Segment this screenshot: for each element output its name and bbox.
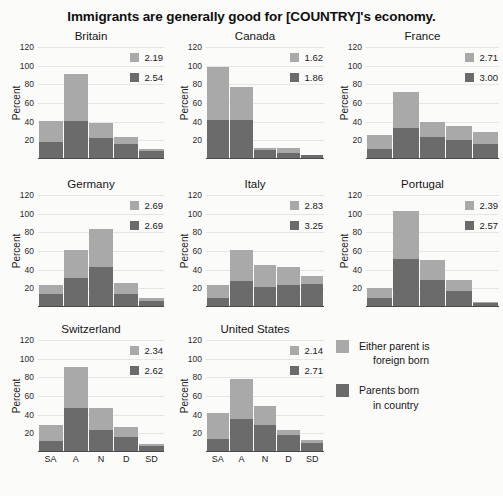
- legend-swatch-light-icon: [336, 340, 349, 353]
- bar-n[interactable]: [253, 47, 277, 158]
- bar-n[interactable]: [88, 47, 113, 158]
- y-tick-label: 120: [20, 335, 34, 345]
- y-tick-label: 40: [25, 117, 34, 127]
- y-tick-label: 60: [353, 98, 362, 108]
- y-tick-label: 60: [193, 98, 202, 108]
- bar-segment-foreign-born: [114, 427, 138, 437]
- bar-segment-foreign-born: [301, 276, 324, 283]
- bar-segment-born-in-country: [39, 294, 63, 306]
- x-tick-label: SD: [139, 454, 164, 464]
- bar-a[interactable]: [230, 47, 254, 158]
- legend-label-line2: in country: [359, 398, 419, 412]
- bar-a[interactable]: [63, 340, 88, 451]
- y-tick-label: 40: [353, 117, 362, 127]
- legend-item-born-in-country[interactable]: Parents bornin country: [336, 383, 496, 411]
- bar-n[interactable]: [419, 47, 446, 158]
- y-tick-label: 40: [25, 410, 34, 420]
- chart-page: Immigrants are generally good for [COUNT…: [0, 0, 503, 496]
- y-tick-label: 80: [25, 372, 34, 382]
- panel-germany: GermanyPercent204060801001202.692.69: [0, 178, 168, 323]
- panel-annotation-legend: 2.142.71: [290, 345, 324, 385]
- bar-segment-born-in-country: [114, 144, 138, 158]
- panel-annotation-value: 2.71: [305, 365, 324, 376]
- y-tick-label: 80: [25, 227, 34, 237]
- main-legend-cell: Either parent isforeign bornParents born…: [328, 323, 503, 483]
- bar-segment-foreign-born: [230, 87, 253, 120]
- bar-a[interactable]: [63, 195, 88, 306]
- panel-annotation-value: 2.19: [145, 52, 164, 63]
- bar-segment-foreign-born: [89, 229, 113, 266]
- legend-swatch-light-icon: [130, 201, 139, 210]
- bar-sa[interactable]: [366, 195, 393, 306]
- panel-annotation-value: 2.69: [145, 200, 164, 211]
- y-tick-label: 80: [353, 79, 362, 89]
- legend-swatch-light-icon: [130, 53, 139, 62]
- legend-swatch-dark-icon: [290, 73, 299, 82]
- bar-segment-foreign-born: [207, 285, 230, 297]
- panel-annotation-value: 1.86: [305, 72, 324, 83]
- bar-segment-born-in-country: [64, 408, 88, 451]
- bar-segment-born-in-country: [254, 287, 277, 306]
- legend-swatch-dark-icon: [290, 366, 299, 375]
- panel-title: United States: [168, 323, 328, 335]
- bar-sa[interactable]: [206, 195, 230, 306]
- bar-segment-born-in-country: [230, 120, 253, 158]
- bar-segment-foreign-born: [89, 408, 113, 429]
- legend-item-foreign-born[interactable]: Either parent isforeign born: [336, 339, 496, 367]
- bar-sa[interactable]: [206, 47, 230, 158]
- bar-a[interactable]: [230, 195, 254, 306]
- panel-title: Switzerland: [0, 323, 168, 335]
- y-tick-label: 120: [348, 190, 362, 200]
- panel-annotation-value: 3.25: [305, 220, 324, 231]
- y-tick-label: 40: [25, 265, 34, 275]
- bar-sa[interactable]: [38, 340, 63, 451]
- bar-segment-foreign-born: [114, 283, 138, 294]
- bar-a[interactable]: [63, 47, 88, 158]
- y-tick-label: 80: [193, 372, 202, 382]
- x-tick-label: N: [253, 454, 277, 464]
- bar-segment-born-in-country: [446, 291, 472, 306]
- bar-n[interactable]: [88, 195, 113, 306]
- bar-segment-born-in-country: [367, 149, 393, 158]
- bar-sa[interactable]: [206, 340, 230, 451]
- bar-segment-foreign-born: [39, 121, 63, 142]
- bar-n[interactable]: [253, 340, 277, 451]
- bar-segment-born-in-country: [89, 138, 113, 158]
- bar-segment-born-in-country: [230, 281, 253, 306]
- bar-segment-foreign-born: [393, 92, 419, 128]
- x-tick-label: SA: [38, 454, 63, 464]
- legend-swatch-light-icon: [130, 346, 139, 355]
- y-axis-ticks: 20406080100120: [181, 340, 204, 452]
- bar-sa[interactable]: [38, 195, 63, 306]
- bar-segment-born-in-country: [139, 151, 163, 158]
- panel-annotation-legend: 2.713.00: [465, 52, 499, 92]
- y-tick-label: 40: [193, 410, 202, 420]
- panel-annotation-row: 1.86: [290, 72, 324, 83]
- x-tick-label: SA: [206, 454, 230, 464]
- y-tick-label: 100: [188, 209, 202, 219]
- bar-segment-born-in-country: [367, 298, 393, 306]
- y-tick-label: 20: [25, 283, 34, 293]
- bar-segment-born-in-country: [254, 150, 277, 158]
- bar-a[interactable]: [393, 195, 420, 306]
- bar-sa[interactable]: [38, 47, 63, 158]
- bar-segment-foreign-born: [367, 288, 393, 297]
- bar-n[interactable]: [88, 340, 113, 451]
- bar-a[interactable]: [393, 47, 420, 158]
- x-tick-label: SD: [300, 454, 324, 464]
- bar-segment-foreign-born: [207, 413, 230, 439]
- bar-sa[interactable]: [366, 47, 393, 158]
- x-axis-ticks: SAANDSD: [38, 454, 164, 464]
- bar-segment-foreign-born: [254, 265, 277, 287]
- bar-a[interactable]: [230, 340, 254, 451]
- panel-annotation-row: 2.57: [465, 220, 499, 231]
- bar-segment-born-in-country: [207, 120, 230, 158]
- bar-n[interactable]: [419, 195, 446, 306]
- bar-n[interactable]: [253, 195, 277, 306]
- panel-annotation-value: 2.57: [480, 220, 499, 231]
- bar-segment-foreign-born: [277, 267, 300, 286]
- y-axis-ticks: 20406080100120: [341, 47, 364, 159]
- panel-title: Germany: [0, 178, 168, 190]
- panel-annotation-legend: 2.192.54: [130, 52, 164, 92]
- y-tick-label: 40: [193, 117, 202, 127]
